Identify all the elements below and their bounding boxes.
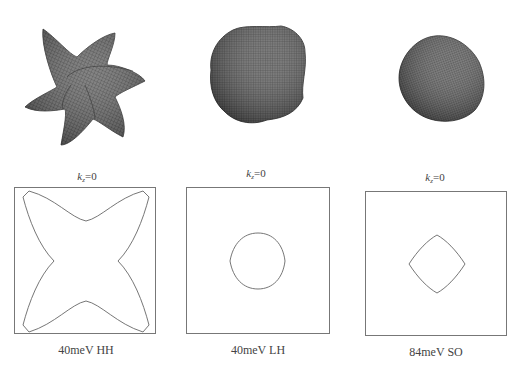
- hh-contour: [23, 191, 149, 332]
- light-hole-isosurface: [205, 22, 315, 132]
- cube-surface-shape: [211, 26, 306, 123]
- so-cross-section: [365, 191, 507, 336]
- lh-contour: [230, 233, 285, 289]
- so-contour: [409, 235, 465, 293]
- hh-cross-section: [14, 187, 156, 334]
- caption-hh: 40meV HH: [26, 343, 146, 358]
- star-surface-shape: [25, 29, 145, 145]
- k-equals: =0: [254, 167, 266, 179]
- split-off-isosurface: [395, 32, 490, 127]
- section-label-hh: kz=0: [57, 170, 117, 184]
- lh-cross-section: [186, 187, 330, 334]
- section-label-so: kz=0: [405, 171, 465, 185]
- section-label-lh: kz=0: [226, 167, 286, 181]
- heavy-hole-isosurface: [15, 15, 155, 150]
- caption-lh: 40meV LH: [198, 343, 318, 358]
- caption-so: 84meV SO: [376, 345, 496, 360]
- k-equals: =0: [433, 171, 445, 183]
- k-equals: =0: [85, 170, 97, 182]
- sphere-surface-shape: [399, 36, 484, 121]
